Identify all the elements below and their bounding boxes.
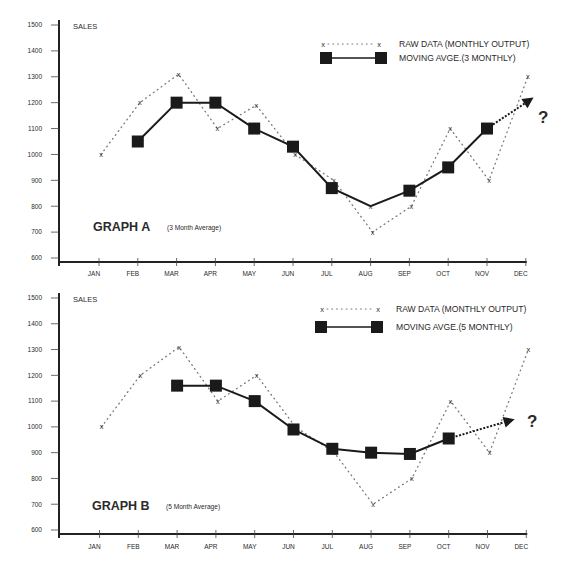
legend-raw-marker: x xyxy=(376,305,380,314)
x-tick-label-dec: DEC xyxy=(514,270,528,277)
x-tick-label-mar: MAR xyxy=(165,543,180,550)
x-tick-label-jan: JAN xyxy=(88,543,101,550)
graph-a: 600700800900100011001200130014001500JANF… xyxy=(28,20,549,277)
y-tick-label: 1300 xyxy=(28,346,43,353)
y-tick-label: 900 xyxy=(31,449,42,456)
x-tick-label-jan: JAN xyxy=(88,270,101,277)
raw-data-point-may: x xyxy=(255,371,259,380)
moving-average-point-oct xyxy=(443,432,455,444)
y-tick-label: 1400 xyxy=(28,320,43,327)
graph-subtitle: (5 Month Average) xyxy=(166,503,220,511)
x-tick-label-nov: NOV xyxy=(475,543,490,550)
raw-data-point-dec: x xyxy=(526,72,530,81)
y-tick-label: 600 xyxy=(31,254,42,261)
moving-average-point-aug xyxy=(365,447,377,459)
legend-raw-label: RAW DATA (MONTHLY OUTPUT) xyxy=(399,39,529,49)
forecast-arrow-head xyxy=(521,97,533,108)
moving-average-point-may xyxy=(249,395,261,407)
x-tick-label-may: MAY xyxy=(242,270,256,277)
x-tick-label-sep: SEP xyxy=(398,543,411,550)
raw-data-point-dec: x xyxy=(526,345,530,354)
x-tick-label-apr: APR xyxy=(204,270,218,277)
moving-average-charts: 600700800900100011001200130014001500JANF… xyxy=(0,0,572,577)
forecast-question-mark: ? xyxy=(527,412,537,431)
y-tick-label: 1100 xyxy=(28,397,42,404)
x-tick-label-jul: JUL xyxy=(322,543,334,550)
x-tick-label-feb: FEB xyxy=(127,543,140,550)
x-tick-label-dec: DEC xyxy=(514,543,528,550)
legend-raw-marker: x xyxy=(377,40,381,49)
x-tick-label-jun: JUN xyxy=(282,270,295,277)
x-tick-label-apr: APR xyxy=(204,543,218,550)
x-tick-label-aug: AUG xyxy=(359,270,373,277)
moving-average-point-nov xyxy=(481,123,493,135)
raw-data-point-apr: x xyxy=(216,124,220,133)
x-tick-label-aug: AUG xyxy=(359,543,373,550)
graph-title: GRAPH B xyxy=(92,499,150,513)
y-tick-label: 1300 xyxy=(28,73,43,80)
raw-data-point-feb: x xyxy=(138,371,142,380)
moving-average-point-jun xyxy=(287,141,299,153)
moving-average-point-jul xyxy=(326,443,338,455)
x-tick-label-sep: SEP xyxy=(398,270,411,277)
legend-ma-marker xyxy=(315,321,327,333)
y-tick-label: 900 xyxy=(31,177,42,184)
x-tick-label-may: MAY xyxy=(243,543,257,550)
x-tick-label-oct: OCT xyxy=(436,270,450,277)
moving-average-point-feb xyxy=(132,136,144,148)
y-tick-label: 800 xyxy=(31,203,42,210)
y-tick-label: 1100 xyxy=(28,125,42,132)
x-tick-label-nov: NOV xyxy=(475,270,490,277)
raw-data-point-aug: x xyxy=(371,228,375,237)
raw-data-point-sep: x xyxy=(410,202,414,211)
y-tick-label: 1200 xyxy=(28,99,43,106)
legend-ma-label: MOVING AVGE.(3 MONTHLY) xyxy=(399,53,516,63)
y-tick-label: 700 xyxy=(31,501,42,508)
raw-data-point-mar: x xyxy=(177,343,181,352)
moving-average-line xyxy=(138,103,487,207)
moving-average-point-unmarked-aug: x xyxy=(369,202,373,211)
y-tick-label: 1000 xyxy=(28,151,43,158)
raw-data-point-jan: x xyxy=(99,150,103,159)
raw-data-point-feb: x xyxy=(138,98,142,107)
moving-average-point-sep xyxy=(404,448,416,460)
x-tick-label-oct: OCT xyxy=(437,543,451,550)
moving-average-point-oct xyxy=(442,161,454,173)
y-axis-title: SALES xyxy=(73,295,97,304)
forecast-arrow-line xyxy=(449,422,504,438)
moving-average-point-apr xyxy=(210,380,222,392)
y-tick-label: 1000 xyxy=(28,423,43,430)
moving-average-point-jul xyxy=(326,182,338,194)
moving-average-point-sep xyxy=(403,185,415,197)
y-tick-label: 1500 xyxy=(28,21,43,28)
y-tick-label: 600 xyxy=(31,526,42,533)
y-tick-label: 700 xyxy=(31,228,42,235)
legend-raw-marker: x xyxy=(320,305,324,314)
x-tick-label-feb: FEB xyxy=(126,270,139,277)
y-tick-label: 1500 xyxy=(28,294,43,301)
raw-data-line xyxy=(102,347,529,504)
forecast-question-mark: ? xyxy=(538,108,548,127)
raw-data-point-sep: x xyxy=(410,474,414,483)
raw-data-point-oct: x xyxy=(448,124,452,133)
y-axis-title: SALES xyxy=(73,22,97,31)
raw-data-point-nov: x xyxy=(488,448,492,457)
forecast-arrow-head xyxy=(503,417,515,428)
moving-average-point-apr xyxy=(209,97,221,109)
raw-data-point-nov: x xyxy=(487,176,491,185)
y-tick-label: 1200 xyxy=(28,372,43,379)
moving-average-point-mar xyxy=(171,380,183,392)
legend-ma-marker xyxy=(320,52,332,64)
moving-average-point-mar xyxy=(171,97,183,109)
raw-data-point-may: x xyxy=(254,101,258,110)
x-tick-label-mar: MAR xyxy=(164,270,179,277)
raw-data-point-jan: x xyxy=(100,422,104,431)
x-tick-label-jun: JUN xyxy=(282,543,295,550)
graph-title: GRAPH A xyxy=(93,220,150,234)
moving-average-point-may xyxy=(248,123,260,135)
legend-ma-marker xyxy=(371,321,383,333)
graph-b: 600700800900100011001200130014001500JANF… xyxy=(28,293,538,550)
legend: xxRAW DATA (MONTHLY OUTPUT)MOVING AVGE.(… xyxy=(315,304,526,333)
raw-data-point-mar: x xyxy=(177,70,181,79)
raw-data-point-oct: x xyxy=(449,397,453,406)
